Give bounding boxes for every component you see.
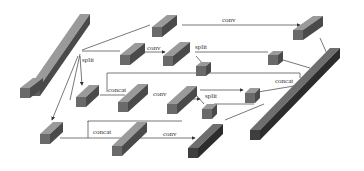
feature-block-r4-left — [40, 122, 63, 144]
label-split-1: split — [82, 56, 94, 64]
edge-concat-right-d — [225, 104, 264, 120]
feature-block-r4-mid — [112, 122, 147, 156]
label-concat-bottom: concat — [93, 128, 111, 136]
label-conv-3: conv — [153, 90, 167, 98]
label-conv-top: conv — [222, 16, 236, 24]
feature-block-r2-right — [268, 51, 283, 65]
feature-block-top-small — [152, 15, 177, 37]
feature-block-output — [250, 48, 340, 140]
feature-block-r4-right — [188, 124, 223, 158]
label-conv-bottom: conv — [163, 130, 177, 138]
feature-block-r2-3 — [196, 62, 211, 76]
edge-concat-right-b — [283, 60, 310, 68]
feature-block-r3-1 — [76, 85, 99, 107]
feature-block-r3-3 — [167, 86, 197, 114]
label-split-3: split — [205, 92, 217, 100]
feature-block-conv-top — [293, 16, 323, 40]
network-diagram: split conv conv split concat conv split … — [0, 0, 364, 171]
feature-block-r3-right — [245, 88, 260, 103]
label-conv-2: conv — [147, 44, 161, 52]
edge-split-3-down — [196, 95, 204, 104]
feature-block-r2-2 — [163, 42, 190, 66]
label-concat-right: concat — [275, 77, 293, 85]
label-split-2: split — [195, 43, 207, 51]
feature-block-r2-1 — [120, 43, 145, 65]
edge-split-b — [70, 54, 80, 100]
label-concat-1: concat — [108, 86, 126, 94]
feature-block-r3-4 — [202, 104, 217, 119]
